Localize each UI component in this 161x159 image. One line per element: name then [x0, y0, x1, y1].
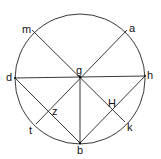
point-g — [79, 76, 82, 79]
label-d: d — [6, 71, 12, 83]
label-g: g — [76, 64, 82, 76]
line-h-b — [80, 76, 145, 143]
label-h: h — [147, 69, 153, 81]
label-a: a — [129, 22, 136, 34]
geometry-diagram: m a d g h z H t k b — [0, 0, 161, 159]
label-t: t — [29, 124, 32, 136]
point-h — [144, 75, 146, 77]
label-k: k — [127, 121, 133, 133]
label-b: b — [77, 144, 83, 156]
label-m: m — [22, 23, 31, 35]
point-d — [14, 77, 16, 79]
label-z: z — [52, 105, 58, 117]
line-d-b — [15, 78, 80, 143]
label-H: H — [108, 97, 116, 109]
